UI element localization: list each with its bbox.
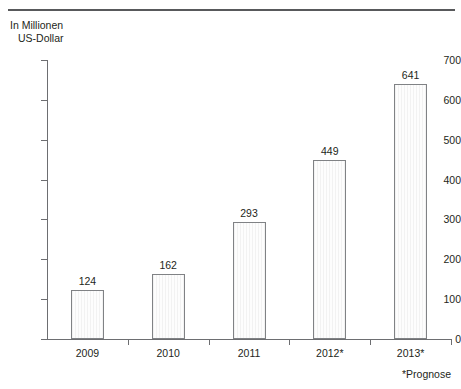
y-axis-tick (41, 100, 47, 101)
x-axis-line (47, 339, 451, 340)
y-axis-tick-label: 300 (425, 213, 461, 225)
plot-area: 0100200300400500600700 124162293449641 2… (0, 0, 461, 389)
y-axis-tick (41, 180, 47, 181)
x-axis-category-label: 2011 (238, 347, 261, 359)
x-axis-tick (370, 339, 371, 345)
x-axis-tick (289, 339, 290, 345)
y-axis-tick (41, 219, 47, 220)
y-axis-tick-label: 500 (425, 134, 461, 146)
y-axis-tick (41, 140, 47, 141)
y-axis-tick (41, 299, 47, 300)
y-axis-tick (41, 259, 47, 260)
bar (233, 222, 266, 339)
x-axis-tick (209, 339, 210, 345)
y-axis-tick-label: 100 (425, 293, 461, 305)
y-axis-tick-label: 700 (425, 54, 461, 66)
x-axis-tick (451, 339, 452, 345)
x-axis-category-label: 2013* (397, 347, 424, 359)
y-axis-tick-label: 200 (425, 253, 461, 265)
y-axis-tick (41, 60, 47, 61)
y-axis-tick-label: 0 (425, 333, 461, 345)
x-axis-tick (128, 339, 129, 345)
bar (152, 274, 185, 339)
bar-value-label: 162 (159, 259, 177, 271)
x-axis-category-label: 2012* (316, 347, 343, 359)
chart-figure: In Millionen US-Dollar 01002003004005006… (0, 0, 461, 389)
bar (394, 84, 427, 339)
y-axis-tick-label: 600 (425, 94, 461, 106)
y-axis-line (47, 60, 48, 340)
bar-value-label: 449 (321, 145, 339, 157)
chart-footnote: *Prognose (402, 368, 451, 380)
bar (71, 290, 104, 339)
bar (313, 160, 346, 339)
bar-value-label: 293 (240, 207, 258, 219)
bar-value-label: 124 (79, 275, 97, 287)
x-axis-category-label: 2009 (76, 347, 99, 359)
y-axis-tick-label: 400 (425, 174, 461, 186)
y-axis-tick (41, 339, 47, 340)
x-axis-category-label: 2010 (157, 347, 180, 359)
bar-value-label: 641 (402, 69, 420, 81)
